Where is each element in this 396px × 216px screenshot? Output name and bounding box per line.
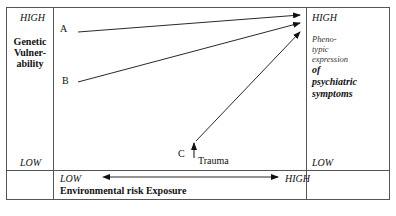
pathway-c-arrow <box>196 32 300 141</box>
pathway-a-arrow <box>78 15 300 32</box>
pathway-arrows <box>0 0 396 216</box>
pathway-b-arrow <box>78 23 300 82</box>
environment-axis-left-arrowhead <box>102 174 110 180</box>
